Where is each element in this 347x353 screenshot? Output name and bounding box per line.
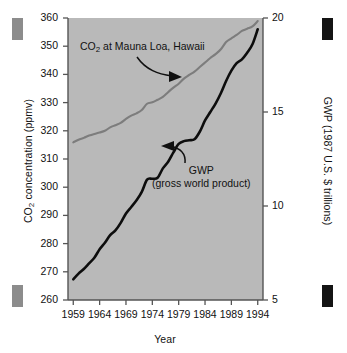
gwp-annotation-line1: GWP bbox=[152, 164, 251, 177]
y-tick-left-290: 290 bbox=[28, 208, 58, 220]
y-axis-right-title: GWP (1987 U.S. $ trillions) bbox=[322, 71, 334, 251]
y-tick-left-260: 260 bbox=[28, 293, 58, 305]
y-tick-left-340: 340 bbox=[28, 67, 58, 79]
y-tick-left-330: 330 bbox=[28, 96, 58, 108]
y-tick-left-300: 300 bbox=[28, 180, 58, 192]
co2-annotation-label: CO2 at Mauna Loa, Hawaii bbox=[80, 40, 205, 55]
gwp-annotation-label: GWP (gross world product) bbox=[152, 164, 251, 189]
y-tick-left-310: 310 bbox=[28, 152, 58, 164]
figure-root: CO2 at Mauna Loa, Hawaii GWP (gross worl… bbox=[0, 0, 347, 353]
y-tick-right-15: 15 bbox=[272, 105, 302, 117]
y-tick-left-270: 270 bbox=[28, 265, 58, 277]
y-tick-left-360: 360 bbox=[28, 11, 58, 23]
x-axis-title: Year bbox=[0, 333, 330, 345]
x-axis-ticks bbox=[73, 300, 257, 305]
y-tick-left-350: 350 bbox=[28, 39, 58, 51]
y-axis-left-ticks bbox=[63, 18, 68, 300]
y-tick-left-320: 320 bbox=[28, 124, 58, 136]
y-tick-right-20: 20 bbox=[272, 11, 302, 23]
gwp-annotation-line2: (gross world product) bbox=[152, 177, 251, 190]
plot-background-group bbox=[68, 18, 263, 300]
x-tick-1994: 1994 bbox=[238, 308, 278, 320]
y-tick-right-5: 5 bbox=[272, 293, 302, 305]
plot-area-background bbox=[68, 18, 263, 300]
y-tick-left-280: 280 bbox=[28, 237, 58, 249]
y-tick-right-10: 10 bbox=[272, 199, 302, 211]
y-axis-right-ticks bbox=[263, 18, 268, 300]
